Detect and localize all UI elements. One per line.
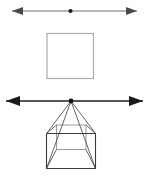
projection-line-bottom-right — [71, 101, 96, 169]
square-outline — [47, 34, 94, 79]
left-arrowhead — [12, 7, 23, 15]
projection-lines — [47, 101, 96, 169]
panel-plain-square — [47, 34, 94, 79]
vanishing-point-dot — [68, 9, 72, 13]
projection-line-top-left — [47, 101, 72, 134]
left-arrowhead — [6, 96, 20, 106]
right-arrowhead — [126, 7, 137, 15]
receding-edges — [47, 125, 96, 169]
right-arrowhead — [129, 96, 143, 106]
panel-perspective-box — [6, 96, 143, 169]
projection-line-bottom-left — [47, 101, 72, 169]
receding-edge-top-right — [86, 125, 96, 134]
front-face — [47, 134, 96, 169]
receding-edge-bottom-left — [47, 150, 57, 169]
perspective-diagram: One-point perspective construction Three… — [0, 0, 149, 181]
panel-horizon-line-with-vanishing-point — [12, 7, 137, 15]
projection-line-top-right — [71, 101, 96, 134]
diagram-canvas — [0, 0, 149, 181]
vanishing-point-dot — [69, 99, 74, 104]
receding-edge-bottom-right — [86, 150, 96, 169]
